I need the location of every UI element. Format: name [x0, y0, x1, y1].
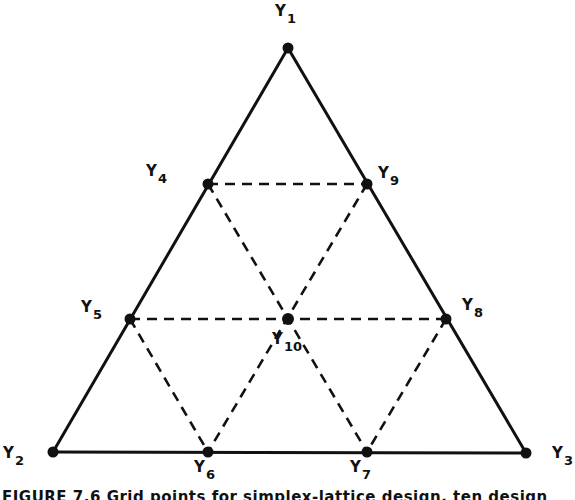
label-y4: Y4 — [146, 164, 167, 179]
label-subscript: 8 — [474, 305, 483, 320]
design-points — [48, 43, 532, 459]
label-y7: Y7 — [350, 460, 371, 475]
label-subscript: 2 — [15, 453, 24, 468]
solid-edge-y1-y3 — [288, 48, 526, 453]
label-subscript: 7 — [362, 467, 371, 482]
label-subscript: 1 — [287, 11, 296, 26]
label-subscript: 5 — [93, 307, 102, 322]
label-y10: Y10 — [272, 332, 302, 347]
point-y8 — [441, 314, 452, 325]
label-letter: Y — [378, 164, 389, 182]
label-y3: Y3 — [552, 446, 573, 461]
label-y5: Y5 — [81, 300, 102, 315]
label-subscript: 10 — [284, 339, 302, 354]
point-y10 — [282, 313, 294, 325]
point-y7 — [362, 447, 373, 458]
label-subscript: 9 — [390, 173, 399, 188]
point-y5 — [125, 314, 136, 325]
figure-caption-text: FIGURE 7.6 Grid points for simplex-latti… — [2, 490, 575, 500]
simplex-lattice-diagram — [0, 0, 575, 500]
label-y1: Y1 — [275, 4, 296, 19]
point-y2 — [48, 447, 59, 458]
label-y2: Y2 — [3, 446, 24, 461]
figure-caption: FIGURE 7.6 Grid points for simplex-latti… — [2, 490, 575, 500]
triangle-outline — [53, 48, 526, 453]
solid-edge-y2-y3 — [53, 452, 526, 453]
label-letter: Y — [146, 162, 157, 180]
label-subscript: 4 — [158, 171, 167, 186]
point-y6 — [203, 447, 214, 458]
label-letter: Y — [3, 444, 14, 462]
dashed-edge-y8-y7 — [367, 319, 446, 452]
label-y9: Y9 — [378, 166, 399, 181]
label-letter: Y — [81, 298, 92, 316]
label-y8: Y8 — [462, 298, 483, 313]
point-y4 — [203, 179, 214, 190]
point-y1 — [283, 43, 294, 54]
label-letter: Y — [272, 330, 283, 348]
label-subscript: 6 — [206, 467, 215, 482]
label-letter: Y — [552, 444, 563, 462]
label-letter: Y — [275, 2, 286, 20]
point-y3 — [521, 448, 532, 459]
label-letter: Y — [462, 296, 473, 314]
dashed-edge-y5-y6 — [130, 319, 208, 452]
label-y6: Y6 — [194, 460, 215, 475]
point-y9 — [362, 179, 373, 190]
label-subscript: 3 — [564, 453, 573, 468]
label-letter: Y — [194, 458, 205, 476]
solid-edge-y1-y2 — [53, 48, 288, 452]
label-letter: Y — [350, 458, 361, 476]
